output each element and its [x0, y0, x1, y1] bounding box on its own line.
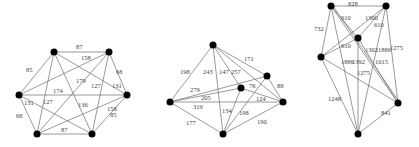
edge-weight-label: 1015	[375, 58, 388, 65]
edge-weight-label: 1275	[357, 69, 370, 76]
edge-weight-label: 87	[61, 126, 68, 133]
edge-weight-label: 279	[190, 86, 200, 93]
edge-weight-label: 127	[91, 82, 102, 89]
graph-node	[328, 3, 335, 10]
edge-weight-label: 610	[341, 14, 351, 21]
edge-weight-label: 127	[43, 98, 54, 105]
edge-weight-label: 841	[381, 109, 391, 116]
edge-weight-label: 85	[110, 111, 117, 118]
edge-weight-label: 205	[201, 94, 211, 101]
graph-node	[355, 131, 362, 138]
edge-weight-label: 179	[76, 77, 86, 84]
graph-1-edges	[19, 52, 127, 134]
graph-1-labels: 87 85 68 68 85 87 158 179 174 127 131 12…	[16, 43, 123, 133]
graph-3: 828 732 610 1302 1886 1300 610 1275 1886…	[314, 0, 403, 138]
edge-weight-label: 131	[24, 99, 34, 106]
edge-weight-label: 76	[249, 82, 256, 89]
graph-node	[51, 49, 58, 56]
edge-weight-label: 1392	[352, 58, 365, 65]
edge-weight-label: 136	[78, 101, 89, 108]
edge	[321, 38, 358, 57]
edge	[223, 102, 283, 134]
edge-weight-label: 198	[180, 68, 190, 75]
edge-weight-label: 158	[81, 54, 91, 61]
edge-weight-label: 87	[76, 43, 83, 50]
edge-weight-label: 85	[26, 66, 33, 73]
edge-weight-label: 319	[193, 103, 203, 110]
graph-node	[264, 73, 271, 80]
edge-weight-label: 68	[116, 68, 123, 75]
graph-node	[89, 131, 96, 138]
edge	[37, 52, 109, 134]
graph-1: 87 85 68 68 85 87 158 179 174 127 131 12…	[16, 43, 131, 138]
edge-weight-label: 158	[107, 105, 117, 112]
graph-node	[124, 92, 131, 99]
edge-weight-label: 243	[203, 68, 213, 75]
edge-weight-label: 174	[53, 87, 64, 94]
edge-weight-label: 1248	[328, 95, 341, 102]
edge-weight-label: 124	[256, 95, 267, 102]
graph-node	[167, 99, 174, 106]
edge-weight-label: 732	[314, 25, 324, 32]
edge-weight-label: 88	[277, 82, 284, 89]
edge	[37, 52, 54, 134]
edge-weight-label: 257	[231, 68, 242, 75]
edge	[92, 52, 109, 134]
edge-weight-label: 1300	[365, 14, 378, 21]
edge-weight-label: 198	[239, 109, 249, 116]
graph-node	[395, 100, 402, 107]
edge-weight-label: 610	[374, 21, 384, 28]
graph-node	[220, 131, 227, 138]
edge-weight-label: 147	[219, 68, 230, 75]
edge	[223, 76, 267, 134]
graph-node	[383, 3, 390, 10]
edge	[170, 76, 267, 102]
edge	[19, 52, 54, 95]
edge-weight-label: 190	[257, 118, 267, 125]
edge	[331, 6, 358, 38]
graph-node	[238, 85, 245, 92]
edge-weight-label: 610	[341, 42, 351, 49]
edge-weight-label: 828	[348, 0, 358, 7]
edge-weight-label: 1886	[378, 46, 392, 53]
edge-weight-label: 1275	[390, 44, 403, 51]
graph-node	[210, 42, 217, 49]
edge-weight-label: 1302	[365, 46, 378, 53]
edge-weight-label: 177	[186, 119, 197, 126]
graph-2-labels: 198 243 147 257 171 279 205 319 177 76 8…	[180, 55, 284, 126]
edge-weight-label: 171	[244, 55, 254, 62]
edge-weight-label: 131	[112, 82, 122, 89]
graph-2: 198 243 147 257 171 279 205 319 177 76 8…	[167, 42, 287, 138]
graph-diagrams: 87 85 68 68 85 87 158 179 174 127 131 12…	[0, 0, 419, 147]
graph-node	[16, 92, 23, 99]
graph-node	[355, 35, 362, 42]
edge-weight-label: 68	[16, 112, 23, 119]
edge	[267, 76, 283, 102]
edge-weight-label: 134	[222, 107, 233, 114]
graph-3-labels: 828 732 610 1302 1886 1300 610 1275 1886…	[314, 0, 403, 116]
graph-node	[34, 131, 41, 138]
graph-node	[318, 54, 325, 61]
graph-node	[106, 49, 113, 56]
graph-node	[280, 99, 287, 106]
